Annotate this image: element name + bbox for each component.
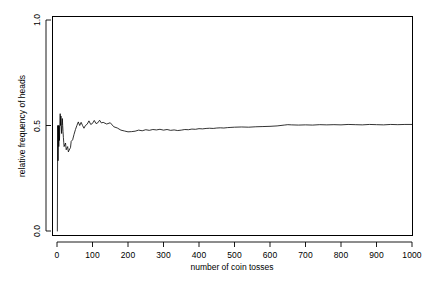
- x-tick-label: 500: [227, 250, 241, 260]
- chart-screenshot: 01002003004005006007008009001000 0.00.51…: [0, 0, 433, 285]
- y-tick-label: 1.0: [32, 14, 42, 26]
- plot-area-frame: [52, 16, 413, 236]
- x-tick-label: 700: [298, 250, 312, 260]
- y-axis: [46, 20, 51, 231]
- x-tick-label: 800: [334, 250, 348, 260]
- x-tick-label: 400: [192, 250, 206, 260]
- y-tick-label: 0.5: [32, 119, 42, 131]
- x-axis-title: number of coin tosses: [190, 262, 273, 272]
- x-tick-label: 200: [121, 250, 135, 260]
- x-tick-label: 300: [156, 250, 170, 260]
- x-tick-label: 100: [85, 250, 99, 260]
- y-axis-title: relative frequency of heads: [17, 75, 27, 177]
- x-tick-label: 900: [369, 250, 383, 260]
- x-axis-ticks: [57, 242, 412, 247]
- y-tick-label: 0.0: [32, 225, 42, 237]
- x-axis: [57, 242, 412, 247]
- x-tick-label: 0: [55, 250, 60, 260]
- x-tick-label: 600: [263, 250, 277, 260]
- x-tick-label: 1000: [402, 250, 421, 260]
- y-axis-ticks: [46, 20, 51, 231]
